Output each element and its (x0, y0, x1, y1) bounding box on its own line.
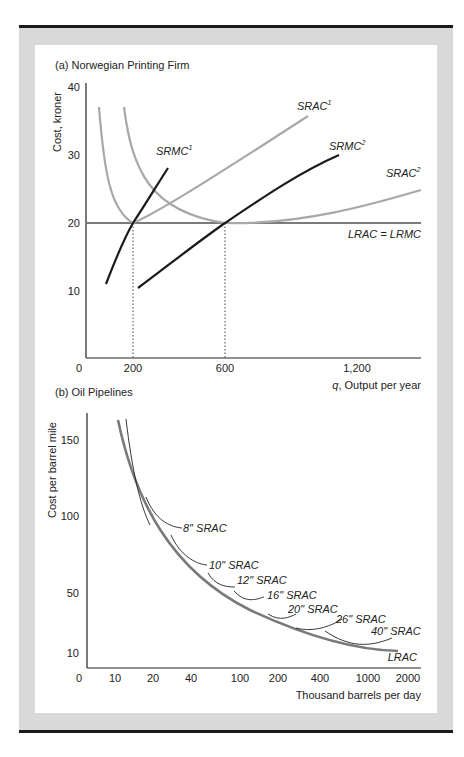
chart-b-xtick: 1000 (356, 672, 380, 684)
chart-a-ytick: 20 (68, 217, 80, 229)
chart-b-xtick: 200 (269, 672, 287, 684)
chart-b-xlabel: Thousand barrels per day (296, 689, 422, 701)
chart-b: (b) Oil Pipelines Cost per barrel mile 1… (46, 386, 421, 701)
curve-srmc1 (106, 168, 168, 284)
chart-b-xtick: 0 (76, 672, 82, 684)
label-srmc1: SRMC1 (156, 144, 192, 157)
chart-a-ytick: 40 (68, 81, 80, 93)
chart-a-xtick: 1,200 (343, 362, 371, 374)
chart-b-ytick: 50 (67, 587, 79, 599)
curve-srac-8-upper (126, 419, 150, 525)
chart-b-ytick: 10 (67, 647, 79, 659)
curve-srac1 (99, 107, 308, 223)
label-srac-26: 26" SRAC (335, 613, 386, 625)
label-srac-16: 16" SRAC (267, 589, 317, 601)
label-srac2: SRAC2 (386, 166, 421, 179)
chart-a-ylabel: Cost, kroner (51, 92, 63, 152)
chart-a-xtick: 600 (216, 362, 234, 374)
chart-b-ylabel: Cost per barrel mile (46, 422, 58, 518)
curve-srmc2 (138, 155, 339, 288)
label-srac-40: 40" SRAC (371, 625, 421, 637)
chart-b-xtick: 20 (147, 672, 159, 684)
label-srac-20: 20" SRAC (287, 603, 338, 615)
label-srac1: SRAC1 (297, 99, 332, 112)
chart-a-ytick: 10 (68, 285, 80, 297)
label-srac-8: 8" SRAC (183, 522, 227, 534)
chart-b-ytick: 150 (61, 434, 79, 446)
chart-b-xtick: 400 (311, 672, 329, 684)
chart-a: (a) Norwegian Printing Firm Cost, kroner… (51, 59, 421, 391)
figure-svg: (a) Norwegian Printing Firm Cost, kroner… (0, 0, 464, 757)
label-srmc2: SRMC2 (329, 139, 365, 152)
curve-srac2 (124, 107, 421, 223)
chart-a-xtick: 0 (76, 362, 82, 374)
label-srac-10: 10" SRAC (209, 559, 259, 571)
label-lrac-pipelines: LRAC (388, 651, 417, 663)
chart-b-xtick: 2000 (396, 672, 420, 684)
label-lrac-lrmc: LRAC = LRMC (348, 228, 421, 240)
label-srac-12: 12" SRAC (237, 574, 287, 586)
chart-a-xtick: 200 (124, 362, 142, 374)
chart-b-xtick: 100 (231, 672, 249, 684)
chart-b-ytick: 100 (61, 510, 79, 522)
chart-a-ytick: 30 (68, 149, 80, 161)
curve-srac-16 (234, 591, 264, 600)
chart-b-title: (b) Oil Pipelines (55, 386, 133, 398)
chart-a-title: (a) Norwegian Printing Firm (55, 59, 189, 71)
chart-b-xtick: 10 (109, 672, 121, 684)
chart-a-xlabel: q, Output per year (332, 379, 421, 391)
chart-b-xtick: 40 (185, 672, 197, 684)
